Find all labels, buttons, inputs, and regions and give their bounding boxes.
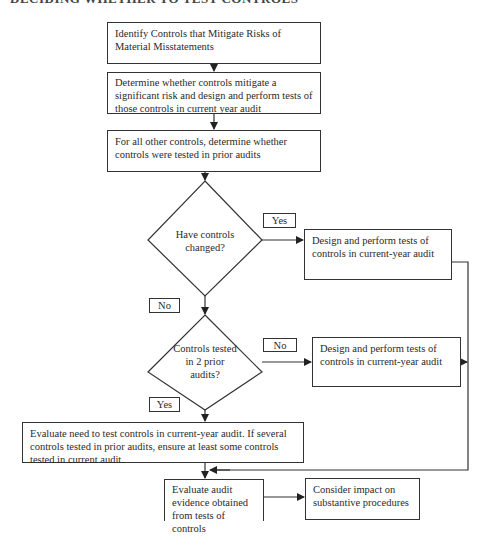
evaluate-need-text: Evaluate need to test controls in curren… [30, 428, 287, 465]
evaluate-need-box: Evaluate need to test controls in curren… [22, 422, 304, 463]
edge-label-changed-no: No [149, 298, 180, 313]
other-controls-box: For all other controls, determine whethe… [107, 130, 321, 172]
decision-tested-prior-text: Controls tested in 2 prior audits? [172, 342, 238, 381]
consider-impact-box: Consider impact on substantive procedure… [305, 478, 420, 520]
consider-impact-text: Consider impact on substantive procedure… [313, 484, 409, 508]
design-perform-tests-box-1: Design and perform tests of controls in … [304, 229, 452, 280]
evaluate-evidence-box: Evaluate audit evidence obtained from te… [164, 479, 264, 521]
design-perform-tests-text-2: Design and perform tests of controls in … [320, 343, 442, 367]
determine-significant-risk-text: Determine whether controls mitigate a si… [115, 77, 312, 114]
determine-significant-risk-box: Determine whether controls mitigate a si… [107, 72, 321, 114]
identify-controls-text: Identify Controls that Mitigate Risks of… [115, 28, 281, 52]
identify-controls-box: Identify Controls that Mitigate Risks of… [107, 22, 321, 64]
design-perform-tests-text-1: Design and perform tests of controls in … [312, 235, 434, 259]
decision-controls-changed-text: Have controls changed? [170, 228, 240, 254]
edge-label-tested-no: No [263, 338, 297, 352]
design-perform-tests-box-2: Design and perform tests of controls in … [312, 337, 461, 387]
edge-label-changed-yes: Yes [263, 213, 296, 228]
other-controls-text: For all other controls, determine whethe… [115, 136, 287, 160]
edge-label-tested-yes: Yes [149, 397, 180, 412]
